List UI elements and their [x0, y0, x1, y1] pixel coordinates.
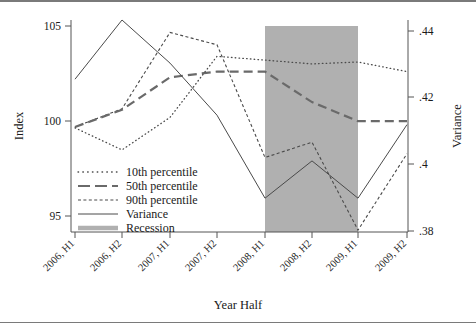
- chart-svg: 105 100 95 .44 .42 .4 .38: [0, 0, 476, 332]
- x-tick-label-2: 2007, H1: [136, 238, 171, 273]
- left-axis-ticks: 105 100 95: [44, 20, 71, 222]
- x-tick-label-0: 2006, H1: [41, 238, 76, 273]
- recession-band: [265, 26, 358, 232]
- x-tick-label-7: 2009, H2: [373, 238, 408, 273]
- right-tick-label-38: .38: [419, 225, 434, 237]
- bottom-axis-ticks: [75, 232, 407, 238]
- right-tick-label-42: .42: [419, 91, 434, 103]
- top-rule: [0, 0, 476, 2]
- left-tick-label-95: 95: [50, 210, 62, 222]
- legend-label-variance: Variance: [126, 207, 168, 221]
- legend-label-recession: Recession: [126, 221, 175, 235]
- bottom-rule: [0, 322, 476, 323]
- x-tick-label-5: 2008, H2: [278, 238, 313, 273]
- figure-container: 105 100 95 .44 .42 .4 .38: [0, 0, 476, 332]
- legend-label-10th-percentile: 10th percentile: [126, 165, 198, 179]
- x-tick-labels: 2006, H1 2006, H2 2007, H1 2007, H2 2008…: [41, 238, 408, 273]
- right-tick-label-40: .4: [419, 158, 428, 170]
- legend-label-90th-percentile: 90th percentile: [126, 193, 198, 207]
- x-tick-label-3: 2007, H2: [183, 238, 218, 273]
- x-tick-label-6: 2009, H1: [324, 238, 359, 273]
- chart-legend: 10th percentile 50th percentile 90th per…: [78, 165, 198, 235]
- right-tick-label-44: .44: [419, 25, 434, 37]
- x-axis-title: Year Half: [214, 298, 263, 312]
- right-axis-ticks: .44 .42 .4 .38: [408, 25, 434, 237]
- x-tick-label-4: 2008, H1: [231, 238, 266, 273]
- left-axis-title: Index: [12, 111, 26, 140]
- legend-label-50th-percentile: 50th percentile: [126, 179, 198, 193]
- left-tick-label-105: 105: [44, 20, 62, 32]
- right-axis-title: Variance: [450, 104, 464, 148]
- left-tick-label-100: 100: [44, 115, 62, 127]
- x-tick-label-1: 2006, H2: [88, 238, 123, 273]
